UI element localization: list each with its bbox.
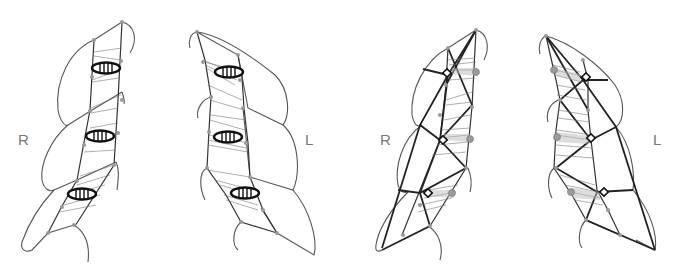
hatched-ellipse-icon <box>215 67 243 78</box>
diagram-canvas <box>0 0 677 279</box>
hatched-ellipse-icon <box>68 189 96 200</box>
panel-3 <box>376 28 487 260</box>
hatched-ellipse-icon <box>86 131 114 142</box>
hatched-ellipse-icon <box>92 63 120 74</box>
hatched-ellipse-icon <box>231 188 259 199</box>
panel-4 <box>539 34 655 250</box>
hatched-ellipse-icon <box>214 132 242 143</box>
panel-1 <box>22 20 135 262</box>
panel-2 <box>189 30 315 255</box>
diamond-marker-icon <box>600 188 608 196</box>
